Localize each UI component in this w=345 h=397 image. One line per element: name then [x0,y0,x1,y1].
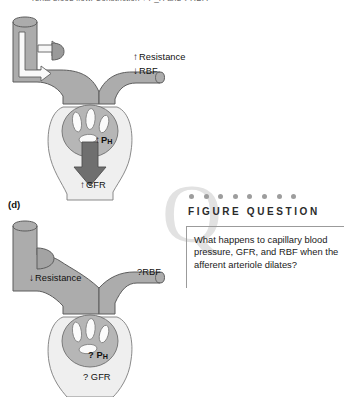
panel-d-resistance-label: ↓Resistance [29,273,82,283]
panel-d-afferent-arteriole [13,221,99,314]
dot-icon [233,194,238,199]
arrow-up-icon: ↑ [80,180,86,189]
panel-c-efferent-arteriole [99,72,165,104]
figure-question-block: Q FIGURE QUESTION What happens to capill… [162,176,345,294]
panel-d-rbf-label: ?RBF [137,267,161,277]
panel-d-efferent-arteriole [99,272,165,314]
dot-icon [218,194,223,199]
panel-c-ph-label: ↑PH [95,135,113,146]
dot-icon [204,194,209,199]
figure-question-left-rule [186,226,187,288]
panel-d-gfr-label: ? GFR [83,372,111,382]
panel-c-rbf-label: ↓RBF [133,66,158,76]
panel-c-resistance-label: ↑Resistance [133,52,186,62]
dot-icon [291,194,296,199]
figure-question-title: FIGURE QUESTION [188,206,320,217]
figure-question-body: What happens to capillary blood pressure… [194,234,344,271]
panel-c-gfr-label: ↑GFR [80,180,106,190]
figure-question-dots [189,194,296,199]
dot-icon [247,194,252,199]
figure-canvas: renal blood flow. Constriction ↑ P_H and… [0,0,345,397]
arrow-down-icon: ↓ [29,273,35,282]
arrow-down-icon: ↓ [133,66,139,75]
panel-c-afferent-arteriole [13,17,99,104]
dot-icon [262,194,267,199]
arrow-up-icon: ↑ [133,52,139,61]
panel-d-ph-label: ? PH [88,350,108,361]
dot-icon [277,194,282,199]
figure-question-top-rule [186,226,344,227]
arrow-up-icon: ↑ [95,135,101,144]
dot-icon [189,194,194,199]
